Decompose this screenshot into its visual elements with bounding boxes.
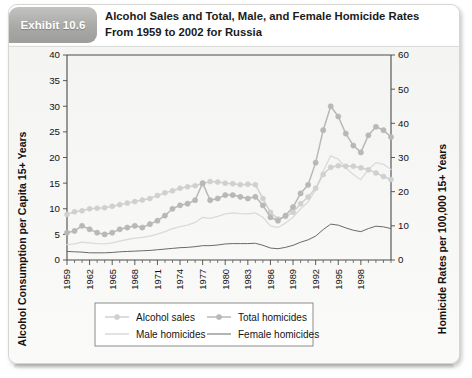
series-total-homicides [64, 104, 393, 237]
right-axis-ticks: 0102030405060 [391, 49, 409, 265]
y-tick-label: 35 [49, 75, 60, 86]
data-point [132, 199, 137, 204]
data-point [313, 160, 318, 165]
data-point [238, 194, 243, 199]
data-point [336, 163, 341, 168]
x-tick-label: 1989 [288, 269, 298, 290]
data-point [178, 186, 183, 191]
data-point [306, 182, 311, 187]
chart-region: Alcohol Consumption per Capita 15+ Years… [9, 49, 459, 363]
exhibit-card: Exhibit 10.6 Alcohol Sales and Total, Ma… [8, 4, 460, 364]
data-point [208, 179, 213, 184]
data-point [230, 192, 235, 197]
data-point [147, 222, 152, 227]
data-point [80, 208, 85, 213]
legend-label: Total homicides [238, 312, 307, 323]
y-tick-label: 5 [55, 229, 60, 240]
data-point [373, 124, 378, 129]
data-point [268, 215, 273, 220]
data-point [147, 196, 152, 201]
legend-label: Female homicides [238, 329, 319, 340]
y-tick-label: 30 [49, 101, 60, 112]
x-tick-label: 1974 [175, 269, 185, 290]
data-point [102, 205, 107, 210]
data-point [72, 209, 77, 214]
data-point [358, 165, 363, 170]
data-point [170, 188, 175, 193]
y-tick-label: 10 [49, 203, 60, 214]
exhibit-title-line-2: From 1959 to 2002 for Russia [105, 25, 455, 41]
data-point [95, 230, 100, 235]
data-point [170, 206, 175, 211]
data-point [155, 218, 160, 223]
data-point [125, 225, 130, 230]
data-point [230, 181, 235, 186]
data-point [313, 186, 318, 191]
data-point [306, 194, 311, 199]
y-tick-label: 15 [49, 178, 60, 189]
data-point [358, 150, 363, 155]
exhibit-number-tab: Exhibit 10.6 [9, 7, 97, 43]
data-point [260, 196, 265, 201]
data-point [140, 198, 145, 203]
data-point [87, 206, 92, 211]
data-point [110, 204, 115, 209]
chart-svg: Alcohol Consumption per Capita 15+ Years… [9, 49, 459, 363]
y2-tick-label: 60 [398, 49, 409, 60]
data-point [208, 198, 213, 203]
data-point [260, 203, 265, 208]
y-tick-label: 20 [49, 152, 60, 163]
data-point [102, 232, 107, 237]
x-tick-label: 1965 [108, 269, 118, 290]
data-point [192, 198, 197, 203]
data-point [298, 191, 303, 196]
data-point [366, 167, 371, 172]
y-tick-label: 25 [49, 126, 60, 137]
data-point [185, 184, 190, 189]
data-point [389, 177, 394, 182]
data-point [185, 201, 190, 206]
data-point [328, 165, 333, 170]
data-point [388, 134, 393, 139]
data-point [328, 104, 333, 109]
x-tick-label: 1959 [62, 269, 72, 290]
series-layer [64, 104, 393, 253]
data-point [223, 181, 228, 186]
y2-axis-title-text: Homicide Rates per 100,000 15+ Years [436, 144, 448, 335]
data-point [351, 164, 356, 169]
data-point [193, 183, 198, 188]
data-point [373, 170, 378, 175]
data-point [245, 196, 250, 201]
x-tick-label: 1980 [221, 269, 231, 290]
data-point [200, 181, 205, 186]
data-point [72, 228, 77, 233]
data-point [215, 180, 220, 185]
x-tick-label: 1962 [85, 269, 95, 290]
data-point [275, 218, 280, 223]
data-point [381, 128, 386, 133]
data-point [117, 227, 122, 232]
y2-tick-label: 30 [398, 152, 409, 163]
data-point [366, 133, 371, 138]
y2-tick-label: 20 [398, 186, 409, 197]
data-point [162, 213, 167, 218]
data-point [291, 210, 296, 215]
data-point [238, 182, 243, 187]
data-point [65, 212, 70, 217]
data-point [162, 190, 167, 195]
data-point [245, 182, 250, 187]
exhibit-title-line-1: Alcohol Sales and Total, Male, and Femal… [105, 9, 455, 25]
data-point [215, 196, 220, 201]
data-point [95, 206, 100, 211]
y-tick-label: 40 [49, 49, 60, 60]
y2-axis-title: Homicide Rates per 100,000 15+ Years [436, 144, 448, 335]
data-point [140, 225, 145, 230]
data-point [321, 128, 326, 133]
x-tick-label: 1977 [198, 269, 208, 290]
data-point [110, 230, 115, 235]
data-point [283, 213, 288, 218]
data-point [336, 114, 341, 119]
data-point [343, 164, 348, 169]
card-shadow [14, 364, 454, 369]
data-point [253, 182, 258, 187]
